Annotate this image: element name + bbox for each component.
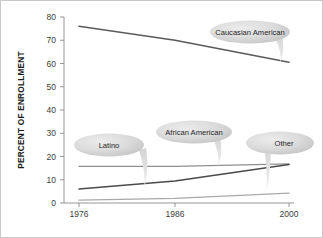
y-tick-label-70: 70 <box>47 35 57 45</box>
y-axis-title: PERCENT OF ENROLLMENT <box>16 51 26 169</box>
callout-label-latino: Latino <box>99 141 120 150</box>
y-tick-label-20: 20 <box>47 152 57 162</box>
callout-label-other: Other <box>275 139 294 148</box>
y-tick-label-10: 10 <box>47 175 57 185</box>
y-tick-label-0: 0 <box>51 198 56 208</box>
y-tick-label-30: 30 <box>47 128 57 138</box>
callout-label-african: African American <box>165 128 222 137</box>
y-tick-label-80: 80 <box>47 12 57 22</box>
callout-label-caucasian: Caucasian American <box>215 28 285 37</box>
y-axis-ticks <box>60 17 64 203</box>
chart-figure: 80 70 60 50 40 30 20 10 0 1976 1986 2000… <box>0 0 323 238</box>
y-tick-label-50: 50 <box>47 82 57 92</box>
enrollment-line-chart: 80 70 60 50 40 30 20 10 0 1976 1986 2000… <box>1 1 323 238</box>
y-tick-label-60: 60 <box>47 59 57 69</box>
x-axis-ticks <box>79 203 289 207</box>
x-tick-label-1976: 1976 <box>70 209 89 219</box>
x-tick-label-2000: 2000 <box>280 209 299 219</box>
plot-area <box>64 17 294 203</box>
x-tick-label-1986: 1986 <box>166 209 185 219</box>
y-tick-label-40: 40 <box>47 105 57 115</box>
